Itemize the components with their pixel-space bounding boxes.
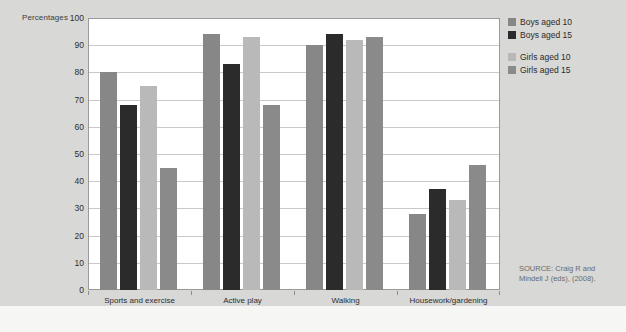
x-tick — [88, 291, 89, 295]
legend-item: Boys aged 10 — [508, 16, 618, 28]
y-tick-label-0: 0 — [58, 285, 84, 295]
x-axis-label: Walking — [331, 296, 359, 305]
x-tick — [499, 291, 500, 295]
legend-swatch-icon — [508, 18, 516, 26]
bar — [100, 72, 117, 290]
bar-group — [88, 18, 191, 290]
source-note: SOURCE: Craig R and Mindell J (eds), (20… — [519, 264, 623, 284]
bar — [243, 37, 260, 290]
legend-item: Girls aged 10 — [508, 51, 618, 63]
bar — [429, 189, 446, 290]
x-tick — [191, 291, 192, 295]
bar — [469, 165, 486, 290]
legend-group-gap — [508, 42, 618, 51]
y-tick-label-20: 20 — [58, 231, 84, 241]
legend-item-label: Boys aged 15 — [520, 30, 572, 40]
y-tick-label-10: 10 — [58, 258, 84, 268]
source-line-2: Mindell J (eds), (2008). — [519, 274, 623, 284]
chart-figure: Percentages 0102030405060708090100 Sport… — [0, 0, 626, 306]
legend-item-label: Boys aged 10 — [520, 17, 572, 27]
bar — [203, 34, 220, 290]
bar — [366, 37, 383, 290]
y-tick-label-50: 50 — [58, 149, 84, 159]
source-line-1: SOURCE: Craig R and — [519, 264, 623, 274]
bar — [409, 214, 426, 290]
bar — [120, 105, 137, 290]
bars-layer — [88, 18, 500, 290]
legend-item: Boys aged 15 — [508, 29, 618, 41]
legend-item: Girls aged 15 — [508, 64, 618, 76]
bar — [160, 168, 177, 290]
chart-legend: Boys aged 10Boys aged 15Girls aged 10Gir… — [508, 16, 618, 77]
bar — [346, 40, 363, 290]
y-tick-label-60: 60 — [58, 122, 84, 132]
x-tick — [294, 291, 295, 295]
y-tick-label-100: 100 — [58, 13, 84, 23]
y-tick-label-40: 40 — [58, 176, 84, 186]
legend-swatch-icon — [508, 31, 516, 39]
y-tick-label-90: 90 — [58, 40, 84, 50]
bar — [449, 200, 466, 290]
bar — [326, 34, 343, 290]
legend-item-label: Girls aged 15 — [520, 65, 571, 75]
bar — [263, 105, 280, 290]
bar — [223, 64, 240, 290]
bar-group — [191, 18, 294, 290]
legend-item-label: Girls aged 10 — [520, 52, 571, 62]
y-tick-label-80: 80 — [58, 67, 84, 77]
x-axis-label: Sports and exercise — [104, 296, 175, 305]
y-tick-label-70: 70 — [58, 95, 84, 105]
y-tick-label-30: 30 — [58, 203, 84, 213]
x-axis-label: Active play — [223, 296, 262, 305]
page-bottom-strip — [0, 306, 626, 332]
bar-group — [294, 18, 397, 290]
bar-group — [397, 18, 500, 290]
x-tick — [397, 291, 398, 295]
bar — [306, 45, 323, 290]
legend-swatch-icon — [508, 66, 516, 74]
x-axis-label: Housework/gardening — [410, 296, 488, 305]
y-axis-tick-labels: 0102030405060708090100 — [56, 18, 84, 290]
legend-swatch-icon — [508, 53, 516, 61]
bar — [140, 86, 157, 290]
